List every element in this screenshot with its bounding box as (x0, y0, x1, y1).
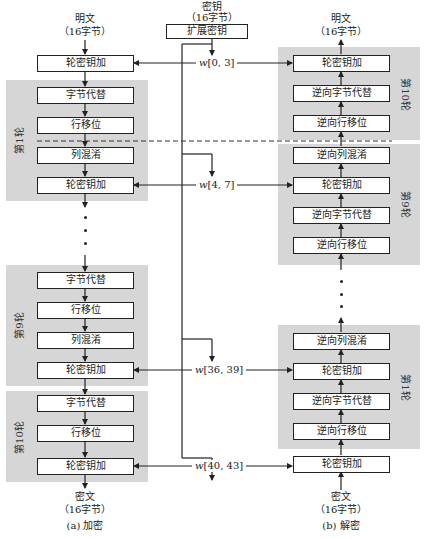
dec-r9-inv-sub-bytes: 逆向字节代替 (293, 207, 390, 224)
enc-r9-mix-columns: 列混淆 (37, 332, 134, 349)
dec-round-1-label: 第1轮 (399, 368, 414, 408)
round-key-w36-39: w[36, 39] (192, 364, 246, 376)
dec-r1-inv-sub-bytes: 逆向字节代替 (293, 393, 390, 410)
round-key-w40-43: w[40, 43] (192, 460, 246, 472)
enc-r10-shift-rows: 行移位 (37, 425, 134, 442)
dec-r9-inv-mix-columns: 逆向列混淆 (293, 147, 390, 164)
enc-r9-shift-rows: 行移位 (37, 302, 134, 319)
w-range: [4, 7] (208, 179, 235, 190)
enc-ellipsis-dot (84, 216, 87, 219)
enc-initial-add-round-key: 轮密钥加 (37, 55, 134, 72)
enc-r9-sub-bytes: 字节代替 (37, 272, 134, 289)
dec-ellipsis-dot (340, 293, 343, 296)
enc-r10-add-round-key: 轮密钥加 (37, 458, 134, 475)
enc-r1-add-round-key: 轮密钥加 (37, 177, 134, 194)
enc-round-9-label: 第9轮 (11, 306, 26, 346)
round-key-w0-3: w[0, 3] (196, 57, 237, 69)
w-range: [40, 43] (204, 460, 244, 471)
dec-r9-inv-shift-rows: 逆向行移位 (293, 237, 390, 254)
enc-round-1-label: 第1轮 (11, 121, 26, 161)
dec-ellipsis-dot (340, 280, 343, 283)
w-symbol: w (195, 460, 204, 471)
w-symbol: w (199, 57, 208, 68)
dec-initial-add-round-key: 轮密钥加 (293, 456, 390, 473)
enc-ellipsis-dot (84, 229, 87, 232)
dec-r10-add-round-key: 轮密钥加 (293, 55, 390, 72)
dec-r1-add-round-key: 轮密钥加 (293, 363, 390, 380)
dec-round-10-label: 第10轮 (399, 75, 414, 115)
enc-r1-mix-columns: 列混淆 (37, 147, 134, 164)
dec-ellipsis-dot (340, 305, 343, 308)
enc-r10-sub-bytes: 字节代替 (37, 395, 134, 412)
dec-r1-inv-mix-columns: 逆向列混淆 (293, 333, 390, 350)
enc-ellipsis-dot (84, 242, 87, 245)
enc-r9-add-round-key: 轮密钥加 (37, 362, 134, 379)
enc-output-size: （16字节） (45, 504, 125, 516)
dec-r1-inv-shift-rows: 逆向行移位 (293, 423, 390, 440)
dec-output-label: 明文 (301, 13, 381, 25)
dec-r10-inv-shift-rows: 逆向行移位 (293, 115, 390, 132)
enc-round-10-label: 第10轮 (11, 418, 26, 458)
w-range: [0, 3] (208, 57, 235, 68)
enc-r1-sub-bytes: 字节代替 (37, 87, 134, 104)
w-symbol: w (195, 364, 204, 375)
enc-output-label: 密文 (45, 491, 125, 503)
dec-input-size: （16字节） (301, 504, 381, 516)
w-range: [36, 39] (204, 364, 244, 375)
enc-input-size: （16字节） (45, 26, 125, 38)
dec-caption: (b) 解密 (301, 520, 381, 532)
dec-r9-add-round-key: 轮密钥加 (293, 177, 390, 194)
w-symbol: w (199, 179, 208, 190)
enc-caption: (a) 加密 (45, 520, 125, 532)
dec-r10-inv-sub-bytes: 逆向字节代替 (293, 85, 390, 102)
enc-r1-shift-rows: 行移位 (37, 117, 134, 134)
key-size: （16字节） (172, 12, 252, 24)
enc-input-label: 明文 (45, 13, 125, 25)
key-expansion-box: 扩展密钥 (166, 24, 248, 39)
dec-input-label: 密文 (301, 491, 381, 503)
dec-output-size: （16字节） (301, 26, 381, 38)
round-key-w4-7: w[4, 7] (196, 179, 237, 191)
dec-round-9-label: 第9轮 (399, 185, 414, 225)
